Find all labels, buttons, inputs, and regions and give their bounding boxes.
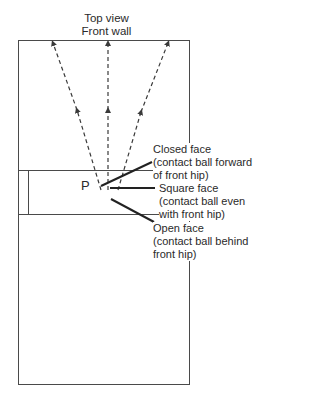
closed-face-line (101, 162, 152, 186)
closed-face-title: Closed face (153, 143, 211, 156)
closed-face-desc-2: of front hip) (153, 169, 209, 182)
open-face-desc-1: (contact ball behind (153, 235, 248, 248)
square-face-title: Square face (159, 182, 218, 195)
open-face-desc-2: front hip) (153, 248, 196, 261)
square-face-desc-1: (contact ball even (159, 195, 245, 208)
square-face-desc-2: with front hip) (159, 208, 225, 221)
closed-face-desc-1: (contact ball forward (153, 156, 252, 169)
open-face-line (111, 199, 154, 222)
shot-path-left (53, 43, 101, 190)
player-marker: P (81, 179, 90, 192)
open-face-title: Open face (153, 222, 204, 235)
